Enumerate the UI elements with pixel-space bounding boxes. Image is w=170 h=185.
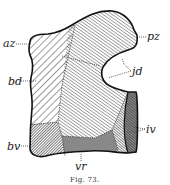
label-vr: vr — [75, 160, 87, 173]
bone-regions — [20, 0, 150, 165]
label-pz: pz — [147, 30, 160, 43]
figure-caption: Fig. 73. — [70, 176, 100, 184]
label-iv: iv — [146, 123, 157, 136]
label-bd: bd — [8, 75, 22, 88]
vertebra-diagram: az pz jd bd bv vr iv Fig. 73. — [0, 0, 170, 185]
label-bv: bv — [7, 140, 21, 153]
label-az: az — [3, 37, 16, 50]
region-bv — [20, 122, 65, 165]
label-jd: jd — [129, 65, 142, 78]
